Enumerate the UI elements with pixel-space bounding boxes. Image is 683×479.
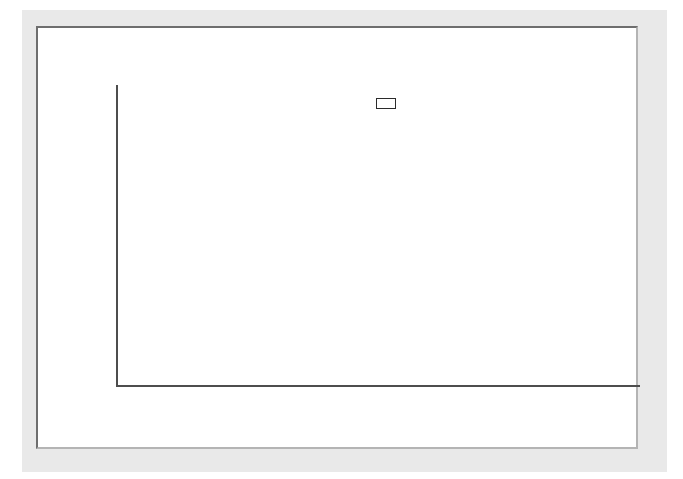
scanned-page (0, 0, 683, 479)
figure-card (36, 26, 638, 449)
y-axis-line (116, 85, 118, 386)
x-axis-region (116, 386, 640, 436)
source-note (52, 418, 55, 430)
plot-area (116, 85, 638, 385)
